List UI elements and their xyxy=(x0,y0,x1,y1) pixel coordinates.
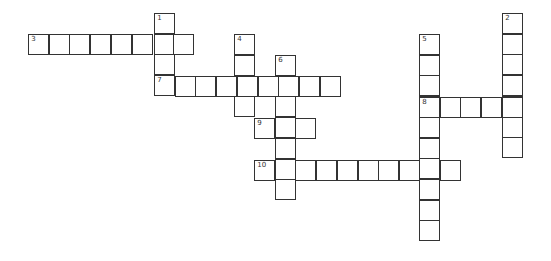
crossword-cell[interactable] xyxy=(419,200,440,221)
crossword-cell[interactable]: 6 xyxy=(275,55,296,76)
clue-number: 3 xyxy=(31,35,35,44)
crossword-cell[interactable] xyxy=(502,54,523,75)
crossword-cell[interactable] xyxy=(275,138,296,159)
crossword-cell[interactable] xyxy=(234,96,255,117)
crossword-cell[interactable] xyxy=(502,117,523,138)
crossword-cell[interactable] xyxy=(419,55,440,76)
crossword-cell[interactable]: 2 xyxy=(502,13,523,34)
crossword-cell[interactable]: 10 xyxy=(254,160,275,181)
crossword-cell[interactable]: 8 xyxy=(419,97,440,118)
crossword-cell[interactable] xyxy=(358,160,379,181)
crossword-cell[interactable] xyxy=(295,118,316,139)
crossword-cell[interactable] xyxy=(299,76,320,97)
crossword-cell[interactable] xyxy=(419,220,440,241)
crossword-cell[interactable] xyxy=(278,76,299,97)
clue-number: 8 xyxy=(422,98,426,107)
clue-number: 1 xyxy=(157,14,161,23)
crossword-cell[interactable] xyxy=(502,75,523,96)
crossword-cell[interactable] xyxy=(237,76,258,97)
crossword-cell[interactable] xyxy=(419,158,440,179)
crossword-cell[interactable] xyxy=(502,97,523,118)
crossword-cell[interactable]: 1 xyxy=(154,13,175,34)
crossword-cell[interactable] xyxy=(337,160,358,181)
crossword-cell[interactable] xyxy=(154,34,175,55)
clue-number: 2 xyxy=(505,14,509,23)
crossword-cell[interactable] xyxy=(175,76,196,97)
crossword-cell[interactable] xyxy=(111,34,132,55)
clue-number: 6 xyxy=(278,56,282,65)
crossword-cell[interactable] xyxy=(258,76,279,97)
crossword-cell[interactable]: 4 xyxy=(234,34,255,55)
crossword-cell[interactable]: 5 xyxy=(419,34,440,55)
crossword-cell[interactable] xyxy=(195,76,216,97)
crossword-cell[interactable] xyxy=(378,160,399,181)
crossword-cell[interactable] xyxy=(316,160,337,181)
crossword-cell[interactable] xyxy=(419,179,440,200)
crossword-cell[interactable] xyxy=(216,76,237,97)
crossword-cell[interactable] xyxy=(275,96,296,117)
crossword-cell[interactable] xyxy=(90,34,111,55)
clue-number: 7 xyxy=(157,76,161,85)
crossword-cell[interactable] xyxy=(154,54,175,75)
crossword-cell[interactable] xyxy=(320,76,341,97)
crossword-cell[interactable] xyxy=(275,159,296,180)
crossword-cell[interactable] xyxy=(419,75,440,96)
clue-number: 9 xyxy=(257,119,261,128)
crossword-cell[interactable] xyxy=(173,34,194,55)
crossword-cell[interactable] xyxy=(69,34,90,55)
crossword-cell[interactable] xyxy=(275,117,296,138)
crossword-grid: 17234568910 xyxy=(0,0,551,261)
crossword-cell[interactable]: 9 xyxy=(254,118,275,139)
crossword-cell[interactable] xyxy=(399,160,420,181)
crossword-cell[interactable] xyxy=(295,160,316,181)
clue-number: 5 xyxy=(422,35,426,44)
crossword-cell[interactable]: 3 xyxy=(28,34,49,55)
crossword-cell[interactable] xyxy=(49,34,70,55)
crossword-cell[interactable] xyxy=(440,160,461,181)
crossword-cell[interactable] xyxy=(419,117,440,138)
crossword-cell[interactable] xyxy=(502,34,523,55)
crossword-cell[interactable]: 7 xyxy=(154,75,175,96)
crossword-cell[interactable] xyxy=(419,138,440,159)
crossword-cell[interactable] xyxy=(502,137,523,158)
crossword-cell[interactable] xyxy=(234,55,255,76)
crossword-cell[interactable] xyxy=(132,34,153,55)
crossword-cell[interactable] xyxy=(275,179,296,200)
crossword-cell[interactable] xyxy=(460,97,481,118)
crossword-cell[interactable] xyxy=(440,97,461,118)
clue-number: 10 xyxy=(257,161,266,170)
clue-number: 4 xyxy=(237,35,241,44)
crossword-cell[interactable] xyxy=(481,97,502,118)
